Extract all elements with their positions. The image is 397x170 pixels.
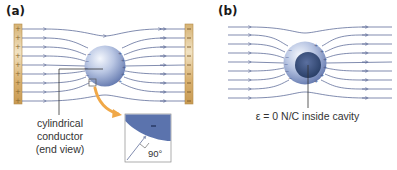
svg-text:−: −	[288, 47, 292, 53]
svg-text:+: +	[320, 48, 324, 54]
svg-text:+: +	[121, 71, 125, 77]
svg-text:−: −	[87, 51, 91, 57]
cavity-caption: ε = 0 N/C inside cavity	[240, 110, 375, 123]
cylindrical-conductor: −−− −− +++ ++	[84, 46, 126, 87]
svg-text:+: +	[118, 78, 122, 84]
svg-text:+: +	[15, 97, 21, 105]
inset-angle-label: 90°	[148, 148, 162, 159]
svg-text:+: +	[122, 64, 126, 70]
caption-line-3: (end view)	[28, 143, 92, 156]
svg-text:+: +	[314, 42, 318, 48]
conductor-with-cavity: −−− −− +++ +++	[284, 42, 328, 85]
svg-text:+: +	[314, 78, 318, 84]
svg-text:−: −	[85, 58, 89, 64]
caption-line-2: conductor	[28, 130, 92, 143]
svg-text:+: +	[15, 88, 21, 96]
conductor-caption: cylindrical conductor (end view)	[28, 117, 92, 156]
callout-arrowhead	[112, 109, 122, 118]
svg-text:+: +	[15, 34, 21, 42]
svg-text:+: +	[15, 79, 21, 87]
svg-text:+: +	[15, 25, 21, 33]
right-plate-negative	[185, 24, 193, 104]
svg-text:+: +	[323, 64, 327, 70]
svg-text:−: −	[288, 75, 292, 81]
svg-text:+: +	[15, 61, 21, 69]
svg-text:+: +	[118, 50, 122, 56]
left-plate-positive: +++ +++ +++	[14, 24, 22, 105]
svg-text:+: +	[15, 52, 21, 60]
svg-text:+: +	[323, 56, 327, 62]
svg-text:−: −	[285, 54, 289, 60]
svg-text:+: +	[320, 72, 324, 78]
svg-text:−: −	[84, 65, 88, 71]
svg-text:+: +	[121, 57, 125, 63]
svg-text:−: −	[284, 61, 288, 67]
svg-text:−: −	[285, 68, 289, 74]
svg-text:+: +	[15, 70, 21, 78]
caption-line-1: cylindrical	[28, 117, 92, 130]
svg-text:+: +	[15, 43, 21, 51]
